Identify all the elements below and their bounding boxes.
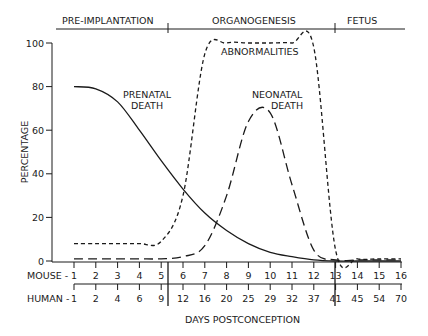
human-tick-label: 2 (93, 293, 99, 304)
mouse-tick-label: 7 (202, 270, 208, 281)
phase-bar: PRE-IMPLANTATION ORGANOGENESIS FETUS (56, 15, 405, 33)
mouse-tick-label: 6 (180, 270, 186, 281)
prenatal-death-label: PRENATAL (123, 89, 172, 100)
human-tick-label: 54 (373, 293, 385, 304)
y-axis: 020406080100 PERCENTAGE (19, 38, 52, 267)
mouse-tick-label: 4 (136, 270, 142, 281)
human-tick-label: 9 (158, 293, 164, 304)
mouse-tick-label: 5 (158, 270, 164, 281)
mouse-tick-label: 2 (93, 270, 99, 281)
mouse-tick-label: 14 (351, 270, 363, 281)
human-tick-label: 37 (308, 293, 320, 304)
neonatal-death-label-2: DEATH (271, 100, 303, 111)
human-tick-label: 45 (351, 293, 363, 304)
human-tick-label: 6 (136, 293, 142, 304)
human-tick-label: 4 (115, 293, 121, 304)
prenatal-death-curve (74, 87, 401, 261)
mouse-tick-label: 9 (245, 270, 251, 281)
phase-organogenesis: ORGANOGENESIS (212, 15, 296, 26)
y-axis-label: PERCENTAGE (19, 121, 30, 183)
human-tick-label: 29 (264, 293, 276, 304)
neonatal-death-label: NEONATAL (252, 89, 303, 100)
phase-preimplantation: PRE-IMPLANTATION (62, 15, 154, 26)
mouse-tick-label: 8 (224, 270, 230, 281)
mouse-axis-label: MOUSE - (27, 270, 68, 281)
mouse-tick-label: 3 (115, 270, 121, 281)
phase-fetus: FETUS (347, 15, 377, 26)
human-tick-label: 70 (395, 293, 407, 304)
human-tick-label: 32 (286, 293, 298, 304)
y-tick-label: 100 (26, 38, 44, 49)
human-tick-label: 16 (199, 293, 211, 304)
mouse-tick-label: 1 (71, 270, 77, 281)
human-tick-label: 20 (221, 293, 233, 304)
human-tick-label: 12 (177, 293, 189, 304)
prenatal-death-label-2: DEATH (131, 100, 163, 111)
human-tick-label: 1 (71, 293, 77, 304)
y-tick-label: 0 (38, 256, 44, 267)
chart: PRE-IMPLANTATION ORGANOGENESIS FETUS 020… (0, 0, 428, 336)
y-tick-label: 40 (32, 168, 44, 179)
x-axis-mouse: MOUSE - 12345678910111213141516 (27, 262, 407, 281)
abnormalities-label: ABNORMALITIES (221, 46, 299, 57)
y-tick-label: 60 (32, 125, 44, 136)
mouse-tick-label: 15 (373, 270, 385, 281)
y-tick-label: 20 (32, 212, 44, 223)
mouse-tick-label: 12 (308, 270, 320, 281)
x-axis-label: DAYS POSTCONCEPTION (185, 314, 300, 325)
human-axis-label: HUMAN - (27, 293, 69, 304)
y-tick-label: 80 (32, 81, 44, 92)
abnormalities-curve (74, 31, 401, 268)
mouse-tick-label: 11 (286, 270, 298, 281)
mouse-tick-label: 10 (264, 270, 276, 281)
x-axis-human: HUMAN - 124691216202529323741455470 (27, 262, 407, 306)
human-tick-label: 25 (242, 293, 254, 304)
mouse-tick-label: 16 (395, 270, 407, 281)
